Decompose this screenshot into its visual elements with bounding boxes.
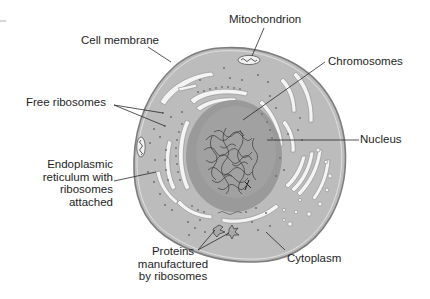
- mitochondrion-top: [238, 55, 260, 64]
- label-nucleus: Nucleus: [360, 133, 402, 146]
- label-free-ribosomes: Free ribosomes: [26, 96, 106, 109]
- label-cytoplasm: Cytoplasm: [287, 252, 341, 265]
- er-line-4: attached: [30, 196, 113, 209]
- proteins-line-3: by ribosomes: [128, 270, 218, 283]
- label-chromosomes: Chromosomes: [328, 55, 403, 68]
- label-mitochondrion: Mitochondrion: [229, 13, 301, 26]
- label-cell-membrane: Cell membrane: [81, 34, 159, 47]
- er-line-1: Endoplasmic: [30, 158, 113, 171]
- label-proteins: Proteins manufactured by ribosomes: [128, 245, 218, 283]
- label-endoplasmic-reticulum: Endoplasmic reticulum with ribosomes att…: [30, 158, 113, 208]
- leader-cell-membrane: [148, 47, 171, 62]
- proteins-line-2: manufactured: [128, 258, 218, 271]
- mitochondrion-left: [137, 137, 145, 157]
- nucleus: [186, 100, 282, 212]
- proteins-line-1: Proteins: [128, 245, 218, 258]
- er-line-2: reticulum with: [30, 171, 113, 184]
- er-line-3: ribosomes: [30, 183, 113, 196]
